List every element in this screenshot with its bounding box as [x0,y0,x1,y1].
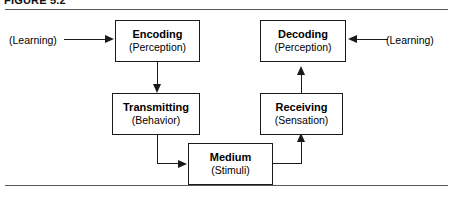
figure-label: FIGURE 5.2 [4,0,66,6]
connector-learning-right-to-decoding [356,39,388,40]
process-box-transmitting-title: Transmitting [123,101,189,114]
process-box-transmitting: Transmitting (Behavior) [112,93,200,135]
process-box-decoding-title: Decoding [278,28,328,41]
process-box-encoding-title: Encoding [132,28,182,41]
process-box-medium: Medium (Stimuli) [188,143,273,185]
arrowhead-learning-right-to-decoding [348,35,357,43]
process-box-receiving: Receiving (Sensation) [260,93,343,135]
connector-encoding-to-transmitting [157,62,158,85]
connector-medium-to-receiving-horizontal [273,163,302,164]
figure-container: FIGURE 5.2 (Learning) (Learning) Encodin… [0,0,453,197]
process-box-receiving-subtitle: (Sensation) [275,114,329,126]
arrowhead-learning-left-to-encoding [105,35,114,43]
top-divider-rule [5,9,448,10]
process-box-medium-title: Medium [210,151,252,164]
process-box-medium-subtitle: (Stimuli) [211,164,250,176]
learning-label-left: (Learning) [9,34,57,46]
arrowhead-transmitting-to-medium [178,160,187,168]
bottom-divider-rule [5,185,448,186]
arrowhead-receiving-to-decoding [297,66,305,75]
process-box-encoding-subtitle: (Perception) [129,41,186,53]
arrowhead-encoding-to-transmitting [153,84,161,93]
learning-label-right: (Learning) [386,34,434,46]
process-box-decoding: Decoding (Perception) [260,20,346,62]
process-box-transmitting-subtitle: (Behavior) [132,114,180,126]
connector-transmitting-to-medium-horizontal [157,163,178,164]
connector-learning-left-to-encoding [64,39,106,40]
process-box-encoding: Encoding (Perception) [115,20,200,62]
connector-transmitting-to-medium-vertical [157,135,158,164]
process-box-receiving-title: Receiving [276,101,328,114]
process-box-decoding-subtitle: (Perception) [274,41,331,53]
